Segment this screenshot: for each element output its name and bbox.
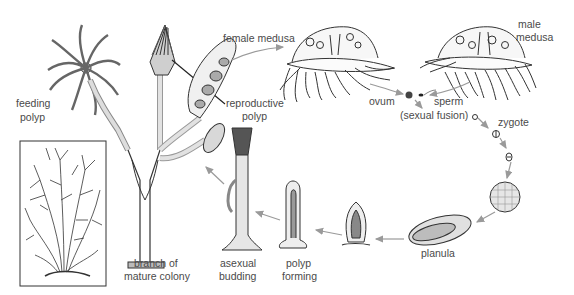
planula-drawing: [406, 209, 475, 251]
female-medusa-drawing: [280, 27, 395, 102]
arrow-blastula-planula: [477, 212, 495, 222]
label-feeding-polyp-2: polyp: [20, 111, 45, 123]
label-asexual-budding-2: budding: [219, 270, 256, 282]
colony-inset: [20, 141, 106, 286]
label-asexual-budding-1: asexual: [220, 257, 256, 269]
label-reproductive-polyp-2: polyp: [242, 110, 267, 122]
label-male-medusa-1: male: [518, 18, 541, 30]
polyp-forming-drawing: [279, 181, 306, 248]
label-female-medusa: female medusa: [223, 32, 295, 44]
label-planula: planula: [421, 247, 455, 259]
blastula-drawing: [490, 182, 520, 212]
label-sexual-fusion: (sexual fusion): [400, 109, 468, 121]
ovum-dot: [406, 92, 413, 99]
label-feeding-polyp-1: feeding: [16, 97, 50, 109]
asexual-budding-drawing: [222, 128, 262, 250]
label-branch-2: mature colony: [124, 270, 190, 282]
feeding-polyp-drawing: [48, 25, 128, 150]
settling-larva-drawing: [342, 202, 370, 245]
label-branch-1: branch of: [134, 257, 178, 269]
hydrozoan-life-cycle-diagram: female medusa male medusa feeding polyp …: [0, 0, 574, 295]
sperm-dot: [419, 94, 424, 97]
label-zygote: zygote: [498, 116, 529, 128]
diagram-artwork: [0, 0, 574, 295]
label-male-medusa-2: medusa: [516, 31, 553, 43]
label-polyp-forming-1: polyp: [286, 257, 311, 269]
label-sperm: sperm: [434, 95, 463, 107]
label-ovum: ovum: [369, 95, 395, 107]
label-reproductive-polyp-1: reproductive: [226, 97, 284, 109]
label-polyp-forming-2: forming: [282, 270, 317, 282]
